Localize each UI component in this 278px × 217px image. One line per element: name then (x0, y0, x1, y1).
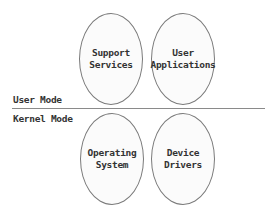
user-applications-label: User Applications (150, 47, 215, 71)
device-drivers-node: Device Drivers (151, 113, 215, 205)
user-applications-node: User Applications (151, 13, 215, 105)
kernel-mode-label: Kernel Mode (13, 113, 73, 124)
support-services-label: Support Services (89, 47, 132, 71)
mode-divider-line (12, 108, 265, 109)
user-mode-label: User Mode (13, 94, 62, 105)
operating-system-label: Operating System (88, 147, 137, 171)
device-drivers-label: Device Drivers (164, 147, 202, 171)
support-services-node: Support Services (79, 13, 143, 105)
architecture-diagram: Support Services User Applications User … (0, 0, 278, 217)
operating-system-node: Operating System (80, 113, 144, 205)
